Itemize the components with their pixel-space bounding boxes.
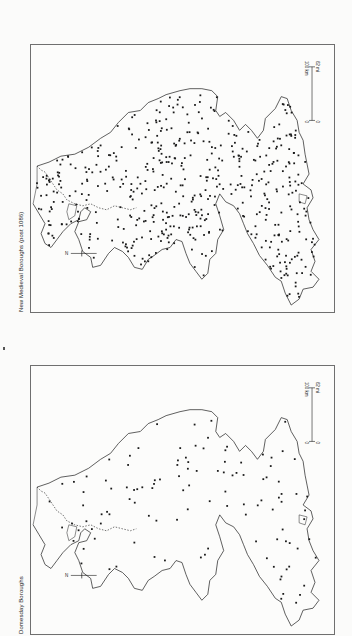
borough-dots: [49, 420, 317, 604]
map-new-medieval-boroughs: N 100 km 62 mi 0 0: [30, 44, 335, 313]
scale-zero-label: 0: [304, 441, 309, 444]
borough-dots: [36, 94, 315, 297]
map-canvas-bottom: N 100 km 62 mi 0 0: [31, 366, 334, 634]
scale-km-label: 100 km: [304, 61, 309, 76]
scale-bar: 100 km 62 mi 0 0: [304, 382, 320, 445]
page-mark: [3, 347, 5, 350]
scale-mi-label: 62 mi: [315, 382, 320, 393]
map-title-domesday-boroughs: Domesday Boroughs: [18, 576, 24, 634]
map-domesday-boroughs: N 100 km 62 mi 0 0: [30, 365, 335, 635]
scale-km-label: 100 km: [304, 382, 309, 397]
scale-zero-label: 0: [304, 120, 309, 123]
north-label: N: [65, 251, 68, 256]
scale-bar: 100 km 62 mi 0 0: [304, 61, 320, 124]
north-arrow: N: [65, 572, 97, 578]
coastline: [33, 89, 319, 305]
scale-mi-label: 62 mi: [315, 61, 320, 72]
map-canvas-top: N 100 km 62 mi 0 0: [31, 45, 334, 312]
coastline: [33, 410, 319, 626]
map-title-new-medieval-boroughs: New Medieval Boroughs (post 1086): [18, 212, 24, 312]
north-label: N: [65, 573, 68, 578]
scale-zero-label-mi: 0: [315, 441, 320, 444]
north-arrow: N: [65, 250, 97, 256]
scale-zero-label-mi: 0: [315, 120, 320, 123]
